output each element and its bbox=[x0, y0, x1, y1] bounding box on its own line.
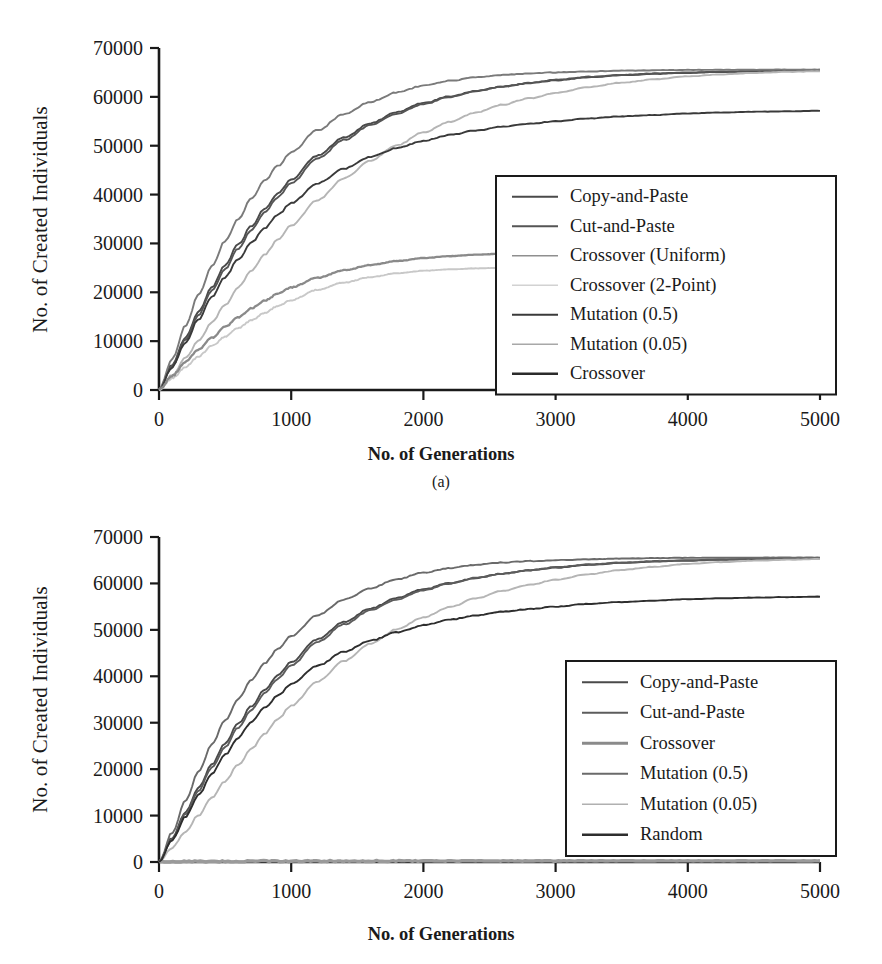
legend-label: Cut-and-Paste bbox=[570, 216, 675, 236]
legend-b: Copy-and-PasteCut-and-PasteCrossoverMuta… bbox=[566, 661, 836, 856]
y-tick-label: 40000 bbox=[93, 665, 143, 687]
y-tick-label: 60000 bbox=[93, 86, 143, 108]
x-tick-label: 2000 bbox=[403, 408, 443, 430]
legend-a: Copy-and-PasteCut-and-PasteCrossover (Un… bbox=[496, 176, 836, 395]
legend-label: Random bbox=[640, 824, 703, 844]
legend-label: Mutation (0.05) bbox=[640, 794, 757, 815]
legend-label: Mutation (0.5) bbox=[640, 763, 748, 784]
y-tick-label: 50000 bbox=[93, 619, 143, 641]
chart-panel-b: No. of Created Individuals 0100002000030… bbox=[0, 500, 882, 964]
y-tick-label: 40000 bbox=[93, 184, 143, 206]
legend-label: Crossover (2-Point) bbox=[570, 275, 716, 296]
series-line bbox=[159, 860, 820, 862]
x-tick-label: 3000 bbox=[536, 880, 576, 902]
x-tick-label: 0 bbox=[154, 880, 164, 902]
y-tick-label: 10000 bbox=[93, 805, 143, 827]
plot-area-b: 0100002000030000400005000060000700000100… bbox=[0, 500, 882, 920]
x-tick-label: 0 bbox=[154, 408, 164, 430]
x-tick-label: 4000 bbox=[668, 880, 708, 902]
x-tick-label: 1000 bbox=[271, 880, 311, 902]
y-tick-label: 10000 bbox=[93, 330, 143, 352]
series-line bbox=[159, 268, 503, 390]
legend-label: Mutation (0.05) bbox=[570, 334, 687, 355]
panel-caption-a: (a) bbox=[0, 473, 882, 491]
x-tick-label: 4000 bbox=[668, 408, 708, 430]
legend-label: Mutation (0.5) bbox=[570, 304, 678, 325]
legend-label: Crossover bbox=[570, 363, 645, 383]
y-tick-label: 30000 bbox=[93, 232, 143, 254]
legend-label: Copy-and-Paste bbox=[570, 186, 688, 206]
y-tick-label: 60000 bbox=[93, 572, 143, 594]
x-axis-label-a: No. of Generations bbox=[0, 444, 882, 465]
legend-label: Cut-and-Paste bbox=[640, 702, 745, 722]
series-line bbox=[159, 254, 503, 390]
y-tick-label: 0 bbox=[133, 851, 143, 873]
y-tick-label: 20000 bbox=[93, 281, 143, 303]
x-tick-label: 3000 bbox=[536, 408, 576, 430]
x-tick-label: 5000 bbox=[800, 408, 840, 430]
x-tick-label: 1000 bbox=[271, 408, 311, 430]
legend-label: Crossover bbox=[640, 733, 715, 753]
figure-two-line-charts: No. of Created Individuals 0100002000030… bbox=[0, 0, 882, 964]
y-tick-label: 70000 bbox=[93, 526, 143, 548]
x-axis-label-b: No. of Generations bbox=[0, 924, 882, 945]
x-tick-label: 5000 bbox=[800, 880, 840, 902]
legend-label: Copy-and-Paste bbox=[640, 672, 758, 692]
plot-area-a: 0100002000030000400005000060000700000100… bbox=[0, 0, 882, 440]
chart-panel-a: No. of Created Individuals 0100002000030… bbox=[0, 0, 882, 510]
y-tick-label: 0 bbox=[133, 379, 143, 401]
y-tick-label: 20000 bbox=[93, 758, 143, 780]
legend-label: Crossover (Uniform) bbox=[570, 245, 726, 266]
y-tick-label: 30000 bbox=[93, 712, 143, 734]
y-tick-label: 70000 bbox=[93, 37, 143, 59]
x-tick-label: 2000 bbox=[403, 880, 443, 902]
y-tick-label: 50000 bbox=[93, 135, 143, 157]
